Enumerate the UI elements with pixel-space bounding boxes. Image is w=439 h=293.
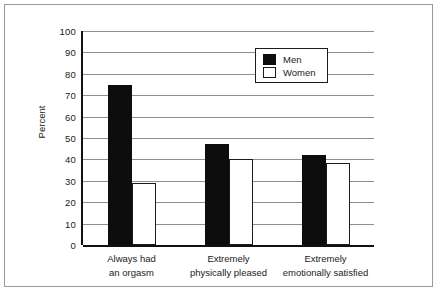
chart-legend: Men Women xyxy=(255,48,328,83)
x-axis-label-0: Always hadan orgasm xyxy=(107,252,156,279)
figure-frame: 1009080706050403020100 Percent Always ha… xyxy=(4,4,433,287)
bar-women-0 xyxy=(132,183,156,245)
y-tick-label-40: 40 xyxy=(65,154,76,165)
x-label-line: Extremely xyxy=(190,252,267,266)
x-label-line: physically pleased xyxy=(190,266,267,280)
legend-entry-women: Women xyxy=(263,66,327,79)
legend-label-women: Women xyxy=(283,67,316,78)
y-tick-label-70: 70 xyxy=(65,90,76,101)
bar-women-1 xyxy=(229,159,253,245)
x-label-line: an orgasm xyxy=(107,266,156,280)
bar-women-2 xyxy=(326,163,350,245)
x-axis-category-labels: Always hadan orgasmExtremelyphysically p… xyxy=(83,252,374,292)
bar-men-1 xyxy=(205,144,229,245)
y-tick-label-60: 60 xyxy=(65,111,76,122)
y-tick-label-80: 80 xyxy=(65,68,76,79)
bar-men-2 xyxy=(302,155,326,245)
y-axis-title: Percent xyxy=(36,106,47,139)
x-label-line: Extremely xyxy=(283,252,369,266)
x-label-line: Always had xyxy=(107,252,156,266)
y-tick-label-30: 30 xyxy=(65,175,76,186)
legend-entry-men: Men xyxy=(263,53,327,66)
x-axis-label-1: Extremelyphysically pleased xyxy=(190,252,267,279)
legend-label-men: Men xyxy=(283,54,301,65)
y-tick-label-50: 50 xyxy=(65,133,76,144)
y-tick-label-20: 20 xyxy=(65,197,76,208)
plot-area: 1009080706050403020100 xyxy=(83,31,374,245)
x-label-line: emotionally satisfied xyxy=(283,266,369,280)
bar-series-group xyxy=(83,31,374,245)
y-tick-label-10: 10 xyxy=(65,218,76,229)
x-axis-baseline xyxy=(83,245,374,247)
x-axis-label-2: Extremelyemotionally satisfied xyxy=(283,252,369,279)
legend-swatch-women-icon xyxy=(263,67,276,78)
bar-men-0 xyxy=(108,85,132,246)
y-tick-label-100: 100 xyxy=(60,26,76,37)
y-tick-label-90: 90 xyxy=(65,47,76,58)
legend-swatch-men-icon xyxy=(263,54,276,65)
y-tick-label-0: 0 xyxy=(71,240,76,251)
